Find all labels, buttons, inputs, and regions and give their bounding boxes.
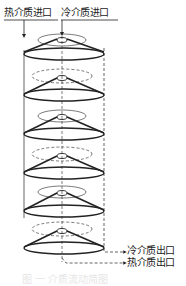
plate-3 (24, 110, 104, 140)
plate-5 (24, 186, 104, 217)
plate-6 (24, 222, 104, 254)
plate-1 (24, 34, 104, 60)
hot-outlet-arrow (62, 258, 125, 263)
plate-2 (24, 69, 104, 101)
plate-4 (24, 147, 104, 179)
cold-outlet-arrow (104, 248, 125, 252)
